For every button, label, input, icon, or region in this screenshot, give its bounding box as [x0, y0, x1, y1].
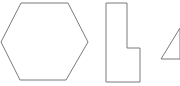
shapes-svg — [0, 0, 180, 86]
drawing-canvas — [0, 0, 180, 86]
canvas-background — [0, 0, 180, 86]
